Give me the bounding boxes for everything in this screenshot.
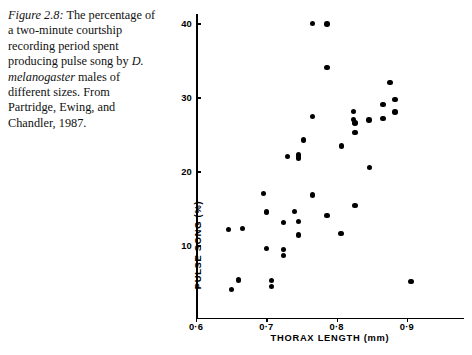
data-point — [261, 191, 266, 196]
y-tick-mark — [197, 97, 201, 98]
data-point — [264, 246, 269, 251]
y-tick-label: 20 — [166, 166, 192, 177]
data-point — [324, 213, 329, 218]
y-axis-title-container: PULSE SONG (%) — [175, 90, 189, 240]
data-point — [236, 277, 241, 282]
y-tick-label: 30 — [166, 92, 192, 103]
data-point — [281, 247, 286, 252]
data-point — [366, 117, 371, 122]
x-axis-title: THORAX LENGTH (mm) — [196, 333, 464, 343]
data-point — [351, 109, 356, 114]
data-point — [269, 284, 274, 289]
data-point — [281, 220, 286, 225]
data-point — [324, 65, 329, 70]
x-tick-label: 0·6 — [181, 321, 211, 332]
data-point — [352, 130, 357, 135]
data-point — [301, 137, 306, 142]
data-point — [387, 80, 392, 85]
data-point — [380, 116, 385, 121]
data-point — [338, 231, 343, 236]
data-point — [292, 209, 297, 214]
y-tick-mark — [197, 245, 201, 246]
data-point — [352, 203, 357, 208]
data-point — [324, 21, 329, 26]
data-point — [392, 97, 397, 102]
figure-page: Figure 2.8: The percentage of a two-minu… — [0, 0, 472, 355]
scatter-plot: PULSE SONG (%) THORAX LENGTH (mm) 102030… — [0, 0, 472, 355]
data-point — [310, 114, 315, 119]
y-tick-label: 10 — [166, 240, 192, 251]
x-tick-label: 0·8 — [322, 321, 352, 332]
data-point — [408, 279, 413, 284]
y-tick-label: 40 — [166, 18, 192, 29]
data-point — [310, 192, 315, 197]
data-point — [392, 109, 397, 114]
data-point — [264, 209, 269, 214]
x-tick-label: 0·9 — [392, 321, 422, 332]
data-point — [240, 226, 245, 231]
data-point — [352, 120, 357, 125]
data-point — [226, 227, 231, 232]
y-tick-mark — [197, 23, 201, 24]
y-tick-mark — [197, 171, 201, 172]
x-axis-line — [196, 318, 464, 320]
data-point — [281, 253, 286, 258]
data-point — [380, 102, 385, 107]
data-point — [296, 219, 301, 224]
data-point — [367, 165, 372, 170]
data-point — [285, 154, 290, 159]
data-point — [296, 232, 301, 237]
data-point — [269, 278, 274, 283]
data-point — [339, 143, 344, 148]
data-point — [296, 155, 301, 160]
data-point — [229, 287, 234, 292]
x-tick-label: 0·7 — [251, 321, 281, 332]
data-point — [310, 21, 315, 26]
